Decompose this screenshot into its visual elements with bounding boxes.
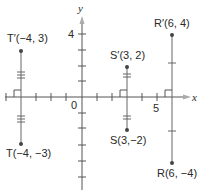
label-s-prime: S′(3, 2) [110, 49, 145, 61]
point-t [19, 142, 23, 146]
label-r-prime: R′(6, 4) [154, 17, 190, 29]
label-t: T(−4, −3) [6, 147, 51, 159]
x-axis-arrow-icon [183, 95, 191, 100]
y-tick-label: 4 [68, 28, 74, 40]
point-t-prime [19, 49, 23, 53]
reflection-diagram: x 5 y 4 0 [0, 0, 199, 192]
origin-label: 0 [71, 99, 77, 111]
right-angle-marker [120, 90, 127, 97]
x-axis: x 5 [5, 91, 197, 114]
segment-t-tprime: T′(−4, 3) T(−4, −3) [6, 32, 51, 159]
y-axis-arrow-icon [80, 16, 85, 24]
x-tick-label: 5 [153, 102, 159, 114]
right-angle-marker [165, 90, 172, 97]
point-s-prime [125, 65, 129, 69]
point-s [125, 128, 129, 132]
segment-r-rprime: R′(6, 4) R(6, −4) [154, 17, 197, 179]
y-axis-label: y [77, 2, 83, 14]
right-angle-marker [14, 90, 21, 97]
point-r-prime [170, 33, 174, 37]
point-r [170, 161, 174, 165]
label-s: S(3,−2) [110, 134, 146, 146]
label-t-prime: T′(−4, 3) [7, 32, 48, 44]
x-axis-label: x [191, 91, 197, 103]
label-r: R(6, −4) [157, 167, 197, 179]
y-axis: y 4 0 [68, 2, 86, 190]
